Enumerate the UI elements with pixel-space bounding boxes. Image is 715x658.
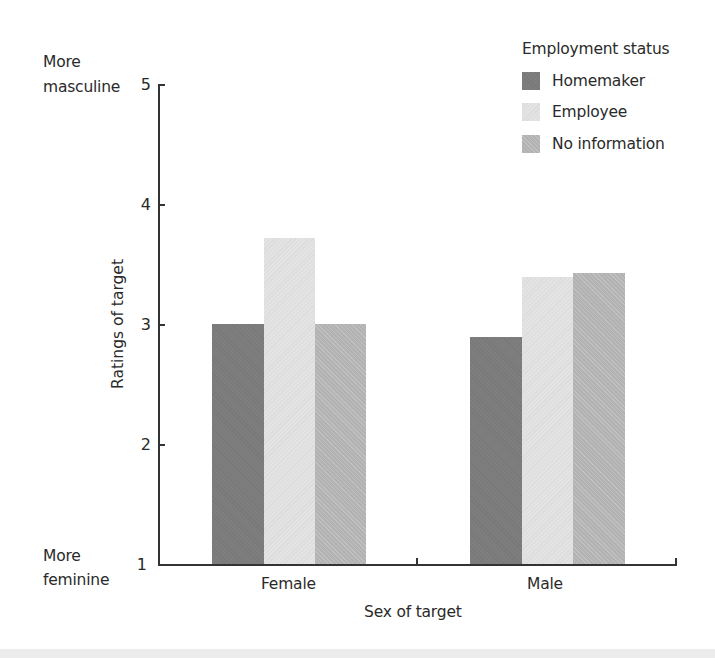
bar-male-no-information: [573, 273, 625, 564]
y-annotation-top-line2: masculine: [43, 78, 120, 96]
y-tick-label-2: 2: [131, 436, 151, 454]
legend-swatch-no-information: [522, 135, 540, 153]
y-tick-5: [158, 84, 165, 86]
y-annotation-bottom-line2: feminine: [43, 571, 109, 589]
y-annotation-top-line1: More: [43, 53, 81, 71]
bar-female-no-information: [315, 324, 366, 564]
bottom-band: [0, 649, 715, 658]
y-tick-label-5: 5: [131, 76, 151, 94]
legend-label-employee: Employee: [552, 103, 627, 121]
legend-label-homemaker: Homemaker: [552, 72, 645, 90]
legend: Employment status Homemaker Employee No …: [515, 40, 715, 160]
legend-title: Employment status: [522, 40, 669, 58]
bar-male-homemaker: [470, 337, 522, 564]
y-tick-3: [158, 324, 165, 326]
chart: More masculine More feminine Ratings of …: [0, 0, 715, 658]
y-annotation-bottom-line1: More: [43, 547, 81, 565]
legend-swatch-homemaker: [522, 72, 540, 90]
y-tick-label-4: 4: [131, 196, 151, 214]
bar-male-employee: [522, 277, 573, 564]
bar-female-homemaker: [212, 324, 264, 564]
bar-female-employee: [264, 238, 315, 564]
x-category-male: Male: [527, 575, 563, 593]
y-tick-2: [158, 444, 165, 446]
y-tick-4: [158, 204, 165, 206]
legend-swatch-employee: [522, 103, 540, 121]
y-axis-title: Ratings of target: [109, 259, 127, 389]
y-tick-label-3: 3: [131, 316, 151, 334]
y-tick-label-1: 1: [127, 556, 147, 574]
legend-label-no-information: No information: [552, 135, 665, 153]
x-tick-middle: [416, 558, 418, 565]
x-axis-line: [158, 564, 677, 566]
x-category-female: Female: [261, 575, 316, 593]
x-axis-title: Sex of target: [364, 603, 462, 621]
x-tick-end: [675, 558, 677, 565]
